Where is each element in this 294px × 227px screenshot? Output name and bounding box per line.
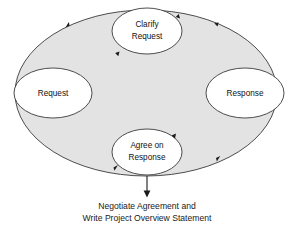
node-agree-on-response[interactable]: Agree on Response xyxy=(112,129,182,175)
node-clarify-request[interactable]: Clarify Request xyxy=(112,8,182,54)
node-request[interactable]: Request xyxy=(14,68,92,118)
caption: Negotiate Agreement and Write Project Ov… xyxy=(83,201,212,223)
node-agree-on-response-shape xyxy=(112,129,182,175)
caption-line1: Negotiate Agreement and xyxy=(98,201,196,211)
output-arrow xyxy=(144,176,151,198)
node-agree-on-response-label-line1: Agree on xyxy=(130,141,164,150)
caption-line2: Write Project Overview Statement xyxy=(83,213,212,223)
node-request-label: Request xyxy=(38,89,69,98)
node-response[interactable]: Response xyxy=(206,68,284,118)
cycle-diagram: Response Request Clarify Request Agree o… xyxy=(0,0,294,227)
node-response-label: Response xyxy=(227,89,264,98)
output-arrowhead xyxy=(144,191,151,198)
node-clarify-request-label-line2: Request xyxy=(132,32,163,41)
node-clarify-request-shape xyxy=(112,8,182,54)
node-clarify-request-label-line1: Clarify xyxy=(135,20,159,29)
node-agree-on-response-label-line2: Response xyxy=(129,153,166,162)
